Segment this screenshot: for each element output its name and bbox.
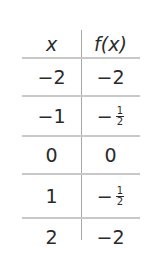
- cell-fx: − 1 2: [81, 185, 140, 207]
- table-row: 1 − 1 2: [22, 175, 140, 219]
- cell-fx: −2: [81, 66, 140, 88]
- cell-fx: −2: [81, 226, 140, 248]
- function-table: x f(x) −2 −2 −1 − 1 2 0 0 1 − 1: [22, 30, 140, 254]
- fraction-value: − 1 2: [97, 105, 124, 127]
- table-header-row: x f(x): [22, 30, 140, 59]
- cell-x: 0: [22, 144, 81, 166]
- table-row: −1 − 1 2: [22, 97, 140, 137]
- table-row: 0 0: [22, 137, 140, 175]
- header-fx: f(x): [81, 33, 140, 55]
- header-x: x: [22, 33, 81, 55]
- cell-x: 2: [22, 226, 81, 248]
- cell-x: 1: [22, 185, 81, 207]
- fraction-value: − 1 2: [97, 185, 124, 207]
- table-row: −2 −2: [22, 59, 140, 97]
- cell-fx: − 1 2: [81, 105, 140, 127]
- cell-x: −1: [22, 105, 81, 127]
- cell-x: −2: [22, 66, 81, 88]
- table-row: 2 −2: [22, 219, 140, 254]
- cell-fx: 0: [81, 144, 140, 166]
